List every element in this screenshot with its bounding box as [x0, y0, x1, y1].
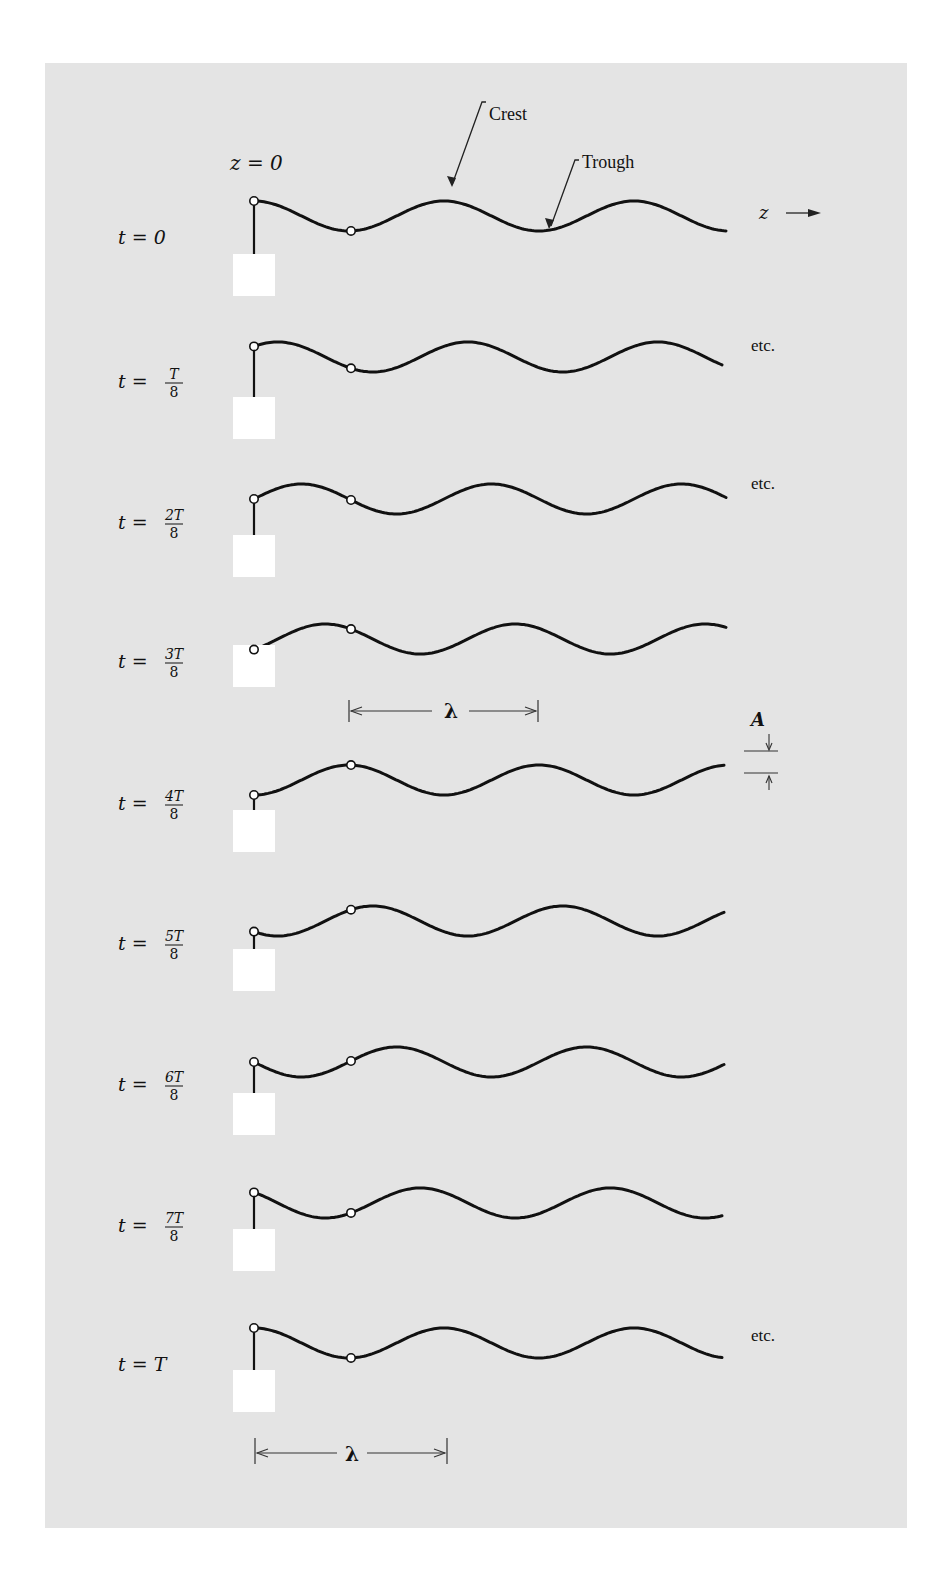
source-block [233, 397, 275, 439]
time-label: t = [118, 1214, 148, 1236]
time-fraction-denominator: 8 [170, 1228, 179, 1244]
source-block [233, 1370, 275, 1412]
time-fraction-denominator: 8 [170, 806, 179, 822]
source-block [233, 254, 275, 296]
time-label: t = 0 [118, 226, 166, 248]
svg-text:Trough: Trough [582, 152, 634, 172]
source-point-marker [250, 1058, 258, 1066]
time-fraction-numerator: 5T [165, 928, 185, 944]
wave-row-7: t =7T8 [118, 1188, 722, 1271]
svg-text:λ: λ [345, 1442, 359, 1466]
source-point-marker [250, 1188, 258, 1196]
svg-text:Crest: Crest [489, 104, 527, 124]
svg-text:λ: λ [444, 699, 458, 723]
svg-text:z: z [758, 202, 769, 223]
trough-annotation: Trough [545, 152, 634, 229]
time-fraction-denominator: 8 [170, 664, 179, 680]
wave-curve [254, 1047, 724, 1077]
wave-row-8: t = Tetc. [118, 1324, 775, 1412]
time-label: t = [118, 370, 148, 392]
time-fraction-numerator: 3T [165, 646, 185, 662]
source-point-marker [250, 791, 258, 799]
wave-curve [254, 906, 724, 936]
z-axis-arrow: z [758, 202, 821, 223]
time-fraction-numerator: 6T [165, 1069, 185, 1085]
wave-row-0: t = 0 [118, 197, 726, 296]
etc-label: etc. [751, 474, 775, 493]
tracked-point-marker [347, 1057, 355, 1065]
wave-row-4: t =4T8 [118, 761, 724, 852]
time-label: t = [118, 1073, 148, 1095]
wave-curve [254, 484, 726, 514]
time-fraction-denominator: 8 [170, 946, 179, 962]
time-fraction-numerator: T [169, 366, 180, 382]
time-fraction-denominator: 8 [170, 525, 179, 541]
source-block [233, 949, 275, 991]
wave-curve [254, 624, 726, 654]
tracked-point-marker [347, 496, 355, 504]
time-fraction-numerator: 2T [164, 507, 185, 523]
tracked-point-marker [347, 906, 355, 914]
wave-row-3: t =3T8 [118, 624, 726, 687]
source-point-marker [250, 1324, 258, 1332]
time-fraction-numerator: 7T [165, 1210, 185, 1226]
wave-curve [254, 1328, 722, 1358]
etc-label: etc. [751, 1326, 775, 1345]
source-block [233, 1093, 275, 1135]
wave-curve [254, 1188, 722, 1218]
source-block [233, 1229, 275, 1271]
source-point-marker [250, 197, 258, 205]
time-label: t = [118, 650, 148, 672]
source-point-marker [250, 927, 258, 935]
wave-curve [254, 765, 724, 795]
tracked-point-marker [347, 625, 355, 633]
time-label: t = [118, 792, 148, 814]
source-point-marker [250, 342, 258, 350]
crest-annotation: Crest [447, 102, 527, 187]
z-zero-label: z = 0 [229, 151, 283, 175]
source-block [233, 810, 275, 852]
etc-label: etc. [751, 336, 775, 355]
tracked-point-marker [347, 1209, 355, 1217]
source-point-marker [250, 495, 258, 503]
time-label: t = [118, 932, 148, 954]
time-label: t = T [118, 1353, 168, 1375]
time-fraction-denominator: 8 [170, 384, 179, 400]
wave-diagram: t = 0t =T8etc.t =2T8etc.t =3T8t =4T8t =5… [0, 0, 941, 1594]
wave-row-1: t =T8etc. [118, 336, 775, 439]
tracked-point-marker [347, 761, 355, 769]
amplitude-marker: A [744, 709, 778, 790]
wave-curve [254, 201, 726, 231]
wave-row-5: t =5T8 [118, 906, 724, 991]
tracked-point-marker [347, 227, 355, 235]
time-fraction-denominator: 8 [170, 1087, 179, 1103]
time-label: t = [118, 511, 148, 533]
svg-text:A: A [749, 709, 765, 730]
wave-curve [254, 342, 722, 372]
wave-row-2: t =2T8etc. [118, 474, 775, 577]
time-fraction-numerator: 4T [164, 788, 185, 804]
source-block [233, 535, 275, 577]
source-point-marker [250, 645, 258, 653]
wavelength-measure-bottom: λ [255, 1438, 447, 1466]
wave-row-6: t =6T8 [118, 1047, 724, 1135]
tracked-point-marker [347, 364, 355, 372]
tracked-point-marker [347, 1354, 355, 1362]
wavelength-measure-top: λ [349, 699, 538, 723]
